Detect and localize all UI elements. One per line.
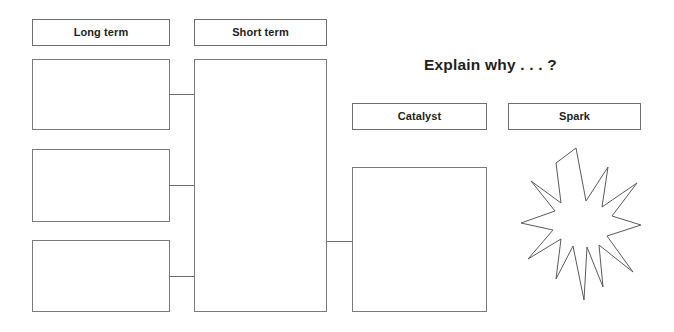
long-term-header-label: Long term: [74, 27, 129, 38]
connector-short-term-to-catalyst: [327, 241, 352, 242]
long-term-entry-box-3[interactable]: [32, 240, 170, 312]
star-burst-icon: [515, 143, 647, 305]
connector-long-term-2-to-short-term: [170, 185, 195, 186]
catalyst-header-box: Catalyst: [352, 103, 487, 130]
long-term-entry-box-1[interactable]: [32, 59, 170, 130]
short-term-entry-box[interactable]: [194, 59, 327, 312]
long-term-entry-box-2[interactable]: [32, 149, 170, 222]
catalyst-header-label: Catalyst: [398, 111, 442, 122]
spark-header-label: Spark: [559, 111, 590, 122]
spark-header-box: Spark: [508, 103, 641, 130]
connector-long-term-1-to-short-term: [170, 94, 195, 95]
short-term-header-box: Short term: [194, 19, 327, 46]
connector-long-term-3-to-short-term: [170, 276, 195, 277]
explain-why-prompt: Explain why . . . ?: [424, 56, 557, 74]
worksheet-canvas: Long term Short term Explain why . . . ?…: [0, 0, 674, 332]
short-term-header-label: Short term: [232, 27, 289, 38]
catalyst-entry-box[interactable]: [352, 167, 487, 312]
long-term-header-box: Long term: [32, 19, 170, 46]
